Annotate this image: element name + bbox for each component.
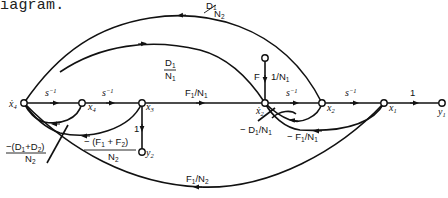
gain-s-inv-2: s−1 — [102, 87, 114, 98]
node-x4dot — [21, 100, 27, 106]
gain-1-N1: 1/N1 — [271, 71, 290, 83]
node-x2 — [319, 100, 325, 106]
svg-text:−(D1+D2): −(D1+D2) — [6, 141, 44, 153]
gain-F1-N2: F1/N2 — [186, 173, 209, 185]
node-x4 — [79, 100, 85, 106]
svg-text:D1: D1 — [165, 57, 176, 69]
node-y2 — [139, 149, 145, 155]
gain-one-y2: 1 — [134, 123, 139, 134]
node-x1 — [381, 100, 387, 106]
gain-s-inv-3: s−1 — [286, 87, 298, 98]
svg-text:N2: N2 — [214, 8, 225, 20]
gain-neg-D1-N1: − D1/N1 — [240, 124, 272, 136]
edge-x2-x4dot — [24, 16, 322, 103]
label-x1: x1 — [388, 102, 397, 114]
arrow-icon — [180, 15, 186, 16]
gain-neg-F1-F2-N2: − (F1 + F2) N2 — [84, 136, 136, 163]
label-y1: y1 — [437, 106, 446, 118]
label-F-input: F — [254, 71, 260, 82]
svg-text:N2: N2 — [108, 151, 119, 163]
edge-x4-x4dot — [24, 103, 82, 123]
node-F — [262, 55, 268, 61]
gain-F1-N1: F1/N1 — [185, 87, 208, 99]
node-x2dot — [262, 100, 268, 106]
gain-D1-N2: D1 N2 — [204, 0, 225, 20]
label-x2: x2 — [326, 102, 335, 114]
gain-s-inv-4: s−1 — [345, 87, 357, 98]
arrow-icon — [138, 44, 144, 45]
signal-flow-graph: ẋ4 x4 x3 ẋ2 x2 x1 y1 y2 s−1 s−1 s−1 s−1 … — [0, 0, 448, 198]
gain-s-inv-1: s−1 — [45, 87, 57, 98]
svg-text:N1: N1 — [165, 70, 176, 82]
gain-neg-D1-D2-N2: −(D1+D2) N2 — [6, 141, 46, 165]
label-x2dot: ẋ2 — [255, 105, 264, 117]
label-pointer — [47, 125, 68, 163]
node-x3 — [139, 100, 145, 106]
gain-one-y1: 1 — [410, 87, 415, 98]
label-y2: y2 — [145, 147, 154, 159]
gain-D1-N1: D1 N1 — [164, 57, 176, 82]
label-x4dot: ẋ4 — [8, 98, 17, 110]
gain-neg-F1-N1: − F1/N1 — [287, 131, 318, 143]
svg-text:− (F1 + F2): − (F1 + F2) — [84, 136, 128, 148]
svg-text:N2: N2 — [25, 153, 36, 165]
edge-x4dot-x2dot — [60, 44, 265, 103]
